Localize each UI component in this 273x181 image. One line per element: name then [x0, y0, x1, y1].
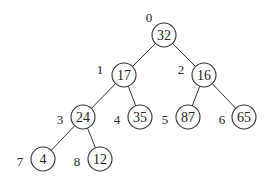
- tree-nodes: 32017116224335487565647128: [17, 10, 256, 172]
- tree-node: 128: [74, 147, 112, 171]
- heap-tree-diagram: 32017116224335487565647128: [0, 0, 273, 181]
- tree-edge: [132, 43, 155, 66]
- node-index-label: 5: [162, 112, 169, 127]
- node-index-label: 1: [97, 62, 104, 77]
- node-value: 12: [93, 152, 107, 167]
- tree-edge: [91, 84, 115, 109]
- node-value: 87: [181, 110, 195, 125]
- node-index-label: 0: [146, 10, 153, 25]
- node-index-label: 8: [74, 154, 81, 169]
- node-value: 32: [157, 28, 171, 43]
- tree-edge: [51, 126, 74, 151]
- tree-edges: [51, 43, 235, 150]
- node-value: 4: [40, 152, 47, 167]
- node-index-label: 6: [219, 112, 226, 127]
- tree-node: 875: [162, 105, 200, 129]
- tree-edge: [88, 128, 96, 148]
- node-value: 35: [133, 110, 147, 125]
- node-value: 17: [117, 68, 131, 83]
- node-value: 24: [76, 110, 90, 125]
- node-value: 65: [237, 110, 251, 125]
- tree-node: 47: [17, 147, 55, 171]
- tree-node: 162: [178, 62, 216, 88]
- tree-edge: [128, 86, 135, 106]
- node-index-label: 4: [114, 112, 121, 127]
- node-value: 16: [197, 68, 211, 83]
- tree-node: 243: [57, 105, 95, 129]
- node-index-label: 3: [57, 112, 64, 127]
- tree-node: 171: [97, 62, 136, 88]
- tree-edge: [192, 86, 199, 106]
- tree-node: 656: [219, 105, 256, 129]
- tree-node: 320: [146, 10, 176, 48]
- node-index-label: 7: [17, 154, 24, 169]
- tree-node: 354: [114, 105, 152, 129]
- tree-edge: [212, 84, 235, 109]
- node-index-label: 2: [178, 62, 185, 77]
